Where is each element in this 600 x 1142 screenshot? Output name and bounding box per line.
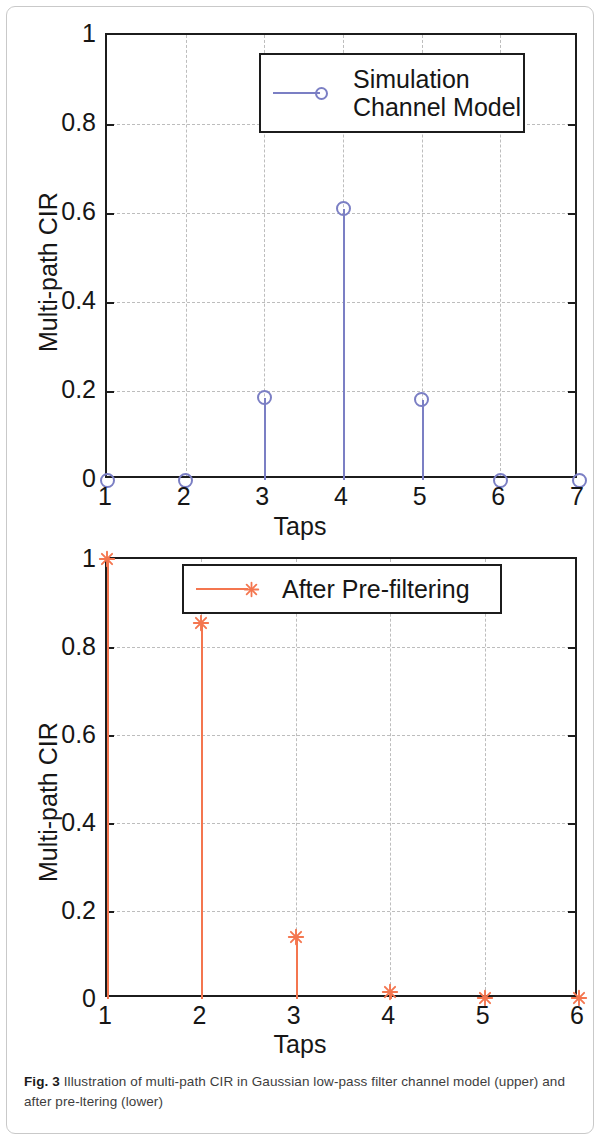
circle-marker-icon — [315, 87, 328, 100]
lower-ytick-1: 1 — [48, 546, 96, 571]
upper-marker-tap-4 — [336, 201, 351, 216]
figure-caption: Fig. 3 Illustration of multi-path CIR in… — [24, 1072, 572, 1111]
lower-ytick-0.8: 0.8 — [48, 634, 96, 659]
upper-legend-line-swatch — [273, 92, 320, 94]
lower-gridline-0.8 — [107, 647, 575, 648]
lower-marker-tap-1 — [98, 550, 116, 568]
upper-ytick-1: 1 — [48, 21, 96, 46]
upper-legend[interactable]: Simulation Channel Model — [259, 53, 525, 133]
upper-stem-tap-4 — [343, 209, 345, 481]
lower-ytick-0.4: 0.4 — [48, 810, 96, 835]
lower-ytick-0.6: 0.6 — [48, 722, 96, 747]
lower-tick-right-0.2 — [568, 911, 575, 913]
lower-marker-tap-3 — [287, 928, 305, 946]
upper-marker-tap-3 — [257, 390, 272, 405]
lower-tick-right-0.6 — [568, 735, 575, 737]
lower-gridline-tap-4 — [390, 559, 391, 995]
upper-ytick-0.6: 0.6 — [48, 199, 96, 224]
lower-stem-tap-2 — [201, 623, 203, 999]
upper-legend-sample — [273, 87, 339, 100]
upper-gridline-0.4 — [107, 302, 575, 303]
upper-xtick-4: 4 — [321, 484, 361, 509]
lower-xtick-3: 3 — [274, 1003, 314, 1028]
lower-gridline-tap-5 — [485, 559, 486, 995]
upper-stem-tap-3 — [264, 398, 266, 480]
upper-marker-tap-5 — [414, 392, 429, 407]
upper-tick-right-0.4 — [568, 302, 575, 304]
upper-gridline-tap-2 — [186, 35, 187, 476]
lower-stem-tap-1 — [107, 559, 109, 999]
lower-x-axis-title: Taps — [0, 1030, 600, 1059]
upper-stem-tap-5 — [422, 400, 424, 480]
upper-ytick-0.8: 0.8 — [48, 110, 96, 135]
upper-tick-right-0.8 — [568, 124, 575, 126]
lower-stem-tap-3 — [296, 937, 298, 999]
upper-xtick-7: 7 — [557, 484, 597, 509]
lower-legend-sample — [196, 581, 266, 598]
asterisk-marker-icon — [243, 581, 260, 598]
lower-marker-tap-2 — [192, 614, 210, 632]
lower-xtick-4: 4 — [368, 1003, 408, 1028]
lower-legend-label: After Pre-filtering — [282, 575, 470, 603]
lower-xtick-1: 1 — [85, 1003, 125, 1028]
lower-gridline-0.4 — [107, 823, 575, 824]
lower-tick-right-0.8 — [568, 647, 575, 649]
upper-xtick-3: 3 — [242, 484, 282, 509]
figure-caption-label: Fig. 3 — [24, 1074, 60, 1089]
upper-tick-left-0.8 — [107, 124, 114, 126]
lower-xtick-6: 6 — [557, 1003, 597, 1028]
upper-legend-label: Simulation Channel Model — [353, 65, 521, 121]
upper-tick-left-0.6 — [107, 213, 114, 215]
lower-ytick-0.2: 0.2 — [48, 898, 96, 923]
upper-ytick-0.4: 0.4 — [48, 288, 96, 313]
upper-tick-left-0.2 — [107, 391, 114, 393]
chart-panel-upper: Multi-path CIR 1 0.8 0.6 0.4 0.2 0 — [0, 0, 600, 530]
lower-xtick-5: 5 — [463, 1003, 503, 1028]
lower-marker-tap-4 — [381, 983, 399, 1001]
chart-panel-lower: Multi-path CIR 1 0.8 0.6 0.4 0.2 0 — [0, 530, 600, 1070]
upper-plot-area: Simulation Channel Model — [105, 33, 577, 478]
upper-xtick-1: 1 — [85, 484, 125, 509]
upper-xtick-6: 6 — [478, 484, 518, 509]
upper-xtick-5: 5 — [400, 484, 440, 509]
lower-legend-line-swatch — [196, 588, 248, 590]
lower-tick-right-0.4 — [568, 823, 575, 825]
upper-tick-right-0.6 — [568, 213, 575, 215]
lower-gridline-0.2 — [107, 911, 575, 912]
upper-gridline-0.2 — [107, 391, 575, 392]
upper-tick-left-0.4 — [107, 302, 114, 304]
upper-ytick-0.2: 0.2 — [48, 377, 96, 402]
upper-xtick-2: 2 — [164, 484, 204, 509]
lower-gridline-0.6 — [107, 735, 575, 736]
lower-plot-area: After Pre-filtering — [105, 557, 577, 997]
lower-xtick-2: 2 — [179, 1003, 219, 1028]
figure-caption-text: Illustration of multi-path CIR in Gaussi… — [24, 1074, 565, 1109]
upper-tick-right-0.2 — [568, 391, 575, 393]
lower-legend[interactable]: After Pre-filtering — [182, 564, 502, 614]
